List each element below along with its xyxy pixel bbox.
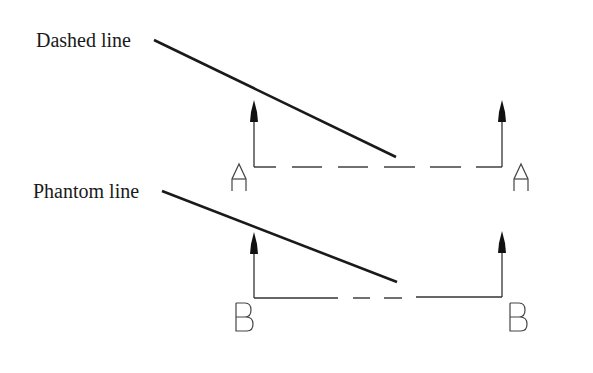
diagram-svg [0,0,593,373]
section-letter-a [514,164,528,191]
cutting-plane-a [232,100,528,191]
arrow-up-icon [250,232,258,254]
arrow-up-icon [498,231,506,253]
cutting-plane-b [236,231,527,331]
arrow-up-icon [250,100,258,122]
arrow-up-icon [498,100,506,122]
section-letter-b [510,303,527,331]
diagram-canvas: Dashed line Phantom line [0,0,593,373]
phantom-leader-line [162,191,397,282]
dashed-leader-line [154,40,396,157]
phantom-line [254,297,502,298]
section-letter-a [232,164,246,191]
section-letter-b [236,303,253,331]
